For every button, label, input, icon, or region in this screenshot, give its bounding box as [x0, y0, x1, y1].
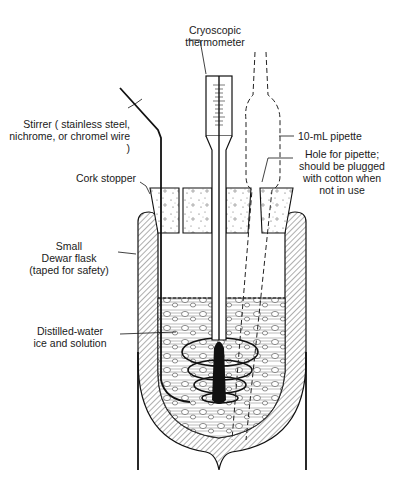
label-hole-for-pipette: Hole for pipette; should be plugged with…	[290, 148, 394, 196]
label-cryoscopic-thermometer: Cryoscopic thermometer	[170, 24, 260, 48]
label-ice-solution: Distilled-water ice and solution	[20, 325, 120, 349]
thermometer-bulb	[212, 342, 226, 405]
label-stirrer: Stirrer ( stainless steel, nichrome, or …	[6, 118, 130, 154]
label-cork-stopper: Cork stopper	[40, 172, 136, 184]
label-pipette: 10-mL pipette	[298, 130, 388, 142]
label-dewar-flask: Small Dewar flask (taped for safety)	[16, 240, 122, 276]
